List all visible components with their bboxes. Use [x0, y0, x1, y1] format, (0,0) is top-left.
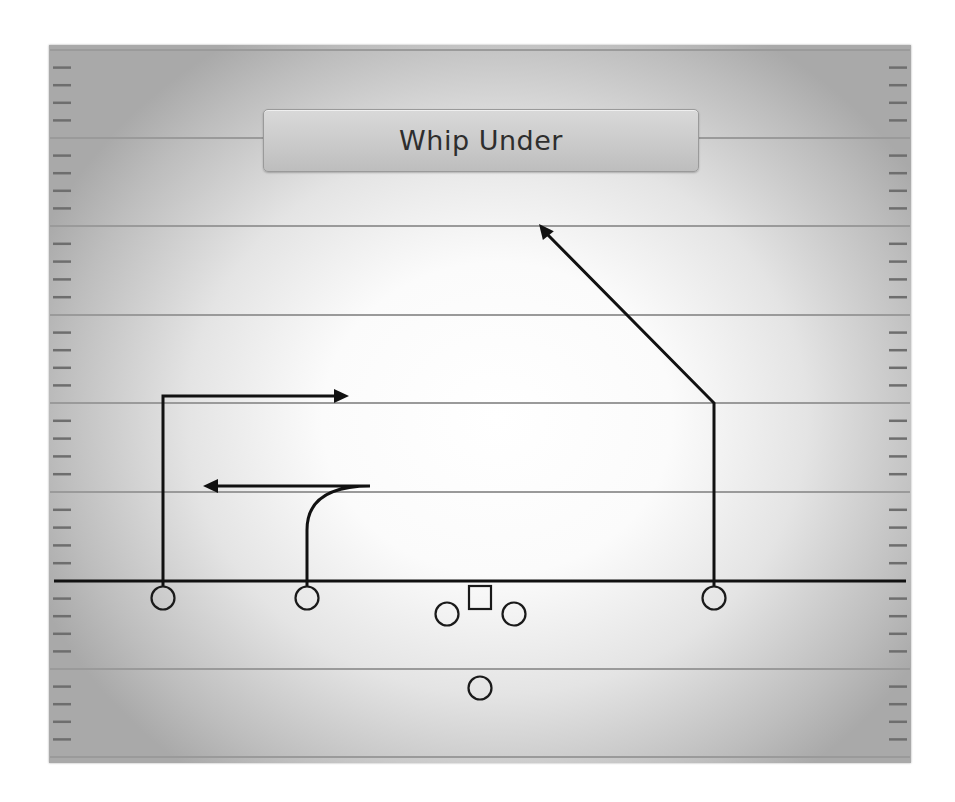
arrowhead-icon [203, 479, 218, 493]
arrowhead-icon [334, 389, 349, 403]
player-guard-right [503, 603, 526, 626]
player-guard-left [436, 603, 459, 626]
player-slot-left [296, 587, 319, 610]
player-back [469, 677, 492, 700]
routes [163, 224, 714, 586]
play-title: Whip Under [399, 125, 563, 156]
route-whip-under [216, 486, 370, 586]
player-center [469, 586, 491, 609]
play-title-banner: Whip Under [263, 109, 699, 172]
route-post [547, 234, 714, 586]
player-wr-left [152, 587, 175, 610]
players [152, 586, 726, 700]
player-wr-right [703, 587, 726, 610]
